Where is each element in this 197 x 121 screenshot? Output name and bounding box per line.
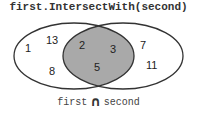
legend-first-label: first [57, 97, 87, 108]
second-only-value: 7 [140, 39, 146, 51]
intersection-icon: ∩ [90, 97, 101, 107]
first-only-value: 1 [25, 42, 31, 54]
legend: first∩second [0, 97, 197, 108]
first-only-value: 13 [46, 34, 58, 46]
intersection-value: 3 [110, 43, 116, 55]
intersection-value: 5 [94, 61, 100, 73]
legend-second-label: second [104, 97, 140, 108]
second-only-value: 11 [146, 59, 157, 71]
intersection-value: 2 [79, 39, 85, 51]
first-only-value: 8 [49, 65, 55, 77]
